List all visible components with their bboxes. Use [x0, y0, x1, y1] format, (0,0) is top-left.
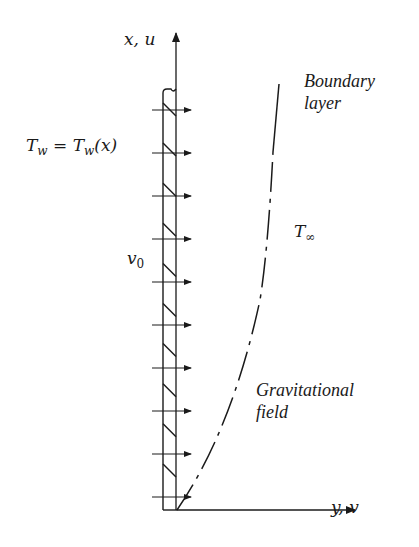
wall-temp-function-subscript: w [84, 144, 94, 158]
boundary-layer-line2: layer [304, 92, 375, 114]
suction-arrows [152, 110, 191, 497]
boundary-layer-edge-curve [177, 84, 279, 510]
wall-hatch-mark [163, 424, 176, 437]
wall-velocity-label: v0 [127, 250, 144, 267]
ambient-temp-subscript: ∞ [305, 230, 315, 244]
wall-temp-subscript: w [37, 144, 47, 158]
ambient-temperature-label: T∞ [294, 223, 315, 240]
wall-temp-symbol: T [26, 135, 37, 155]
vertical-axis-label: x, u [124, 31, 155, 48]
gravitational-field-line2: field [256, 401, 354, 423]
wall-hatch-mark [163, 143, 176, 156]
boundary-layer-diagram: x, u y, v Tw = Tw(x) v0 T∞ Boundary laye… [0, 0, 419, 547]
wall-outline [163, 89, 176, 510]
wall-hatch-mark [163, 304, 176, 317]
boundary-layer-label: Boundary layer [304, 70, 375, 114]
wall-hatch-mark [163, 223, 176, 236]
wall-temp-argument: (x) [94, 135, 117, 155]
gravitational-field-line1: Gravitational [256, 379, 354, 401]
gravitational-field-label: Gravitational field [256, 379, 354, 423]
wall-temp-function-symbol: T [73, 135, 84, 155]
wall-velocity-symbol: v [127, 248, 137, 268]
horizontal-axis-label: y, v [331, 499, 359, 516]
wall-hatch-mark [163, 183, 176, 196]
wall-velocity-subscript: 0 [137, 257, 145, 271]
wall-hatch-mark [163, 344, 176, 357]
boundary-layer-line1: Boundary [304, 70, 375, 92]
porous-wall [163, 89, 176, 510]
wall-hatch-mark [163, 464, 176, 477]
wall-temperature-label: Tw = Tw(x) [26, 137, 117, 154]
wall-hatch-mark [163, 384, 176, 397]
wall-hatch-mark [163, 263, 176, 276]
ambient-temp-symbol: T [294, 221, 305, 241]
equals-sign: = [48, 135, 73, 155]
vertical-axis-text: x, u [124, 29, 155, 49]
horizontal-axis-text: y, v [331, 497, 359, 517]
